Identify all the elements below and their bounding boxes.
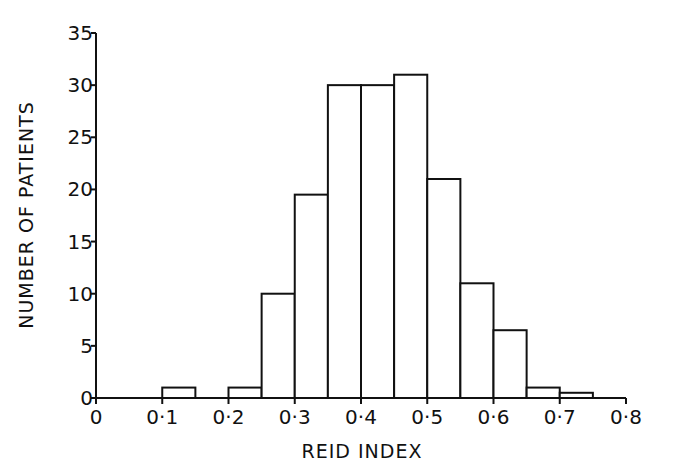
histogram-bar [460,283,493,398]
x-tick-label: 0 [90,405,103,429]
y-tick-label: 10 [68,282,93,306]
histogram-bar [328,85,361,398]
y-tick-label: 25 [68,125,93,149]
histogram-bar [229,388,262,398]
y-axis-label: NUMBER OF PATIENTS [15,101,37,329]
y-tick-label: 5 [80,334,93,358]
histogram-bar [427,179,460,398]
y-axis-ticks: 05101520253035 [68,21,96,410]
histogram-bar [162,388,195,398]
histogram-bar [295,195,328,398]
histogram-bar [262,294,295,398]
y-tick-label: 15 [68,230,93,254]
x-tick-label: 0·3 [279,405,311,429]
y-tick-label: 35 [68,21,93,45]
histogram-bar [527,388,560,398]
x-tick-label: 0·6 [478,405,510,429]
histogram-bar [361,85,394,398]
histogram-bars [162,75,593,398]
x-tick-label: 0·8 [610,405,642,429]
x-axis-ticks: 00·10·20·30·40·50·60·70·8 [90,398,642,429]
x-tick-label: 0·4 [345,405,377,429]
histogram-chart: 05101520253035 00·10·20·30·40·50·60·70·8 [0,0,675,476]
x-axis-label: REID INDEX [302,440,423,462]
histogram-bar [494,330,527,398]
x-tick-label: 0·5 [411,405,443,429]
x-tick-label: 0·7 [544,405,576,429]
y-tick-label: 30 [68,73,93,97]
histogram-bar [394,75,427,398]
x-tick-label: 0·2 [213,405,245,429]
y-tick-label: 20 [68,177,93,201]
x-tick-label: 0·1 [146,405,178,429]
